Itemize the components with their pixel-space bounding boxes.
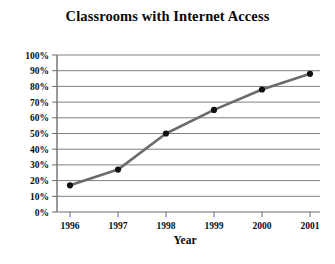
x-tick-label-2000: 2000 — [253, 221, 272, 231]
x-tick-label-1998: 1998 — [157, 221, 176, 231]
y-tick-label-80: 80% — [30, 82, 49, 92]
data-line-series-1 — [70, 74, 310, 186]
y-tick-label-20: 20% — [30, 176, 49, 186]
line-chart-plot: 100% 90% 80% 70% 60% 50% 40% 30% 20% 10%… — [0, 0, 335, 264]
gridlines — [57, 55, 320, 212]
x-tick-label-2001: 2001 — [301, 221, 320, 231]
data-point-2001 — [307, 71, 313, 77]
y-tick-label-30: 30% — [30, 160, 49, 170]
x-tick-label-1999: 1999 — [205, 221, 224, 231]
y-axis-ticks — [52, 55, 57, 212]
y-tick-label-60: 60% — [30, 113, 49, 123]
data-point-2000 — [259, 86, 265, 92]
data-point-1998 — [163, 130, 169, 136]
y-tick-label-0: 0% — [35, 208, 49, 218]
y-tick-label-50: 50% — [30, 129, 49, 139]
y-tick-label-90: 90% — [30, 66, 49, 76]
y-tick-label-100: 100% — [25, 51, 49, 61]
y-tick-label-10: 10% — [30, 192, 49, 202]
y-tick-label-70: 70% — [30, 98, 49, 108]
x-tick-label-1996: 1996 — [61, 221, 80, 231]
x-axis-ticks — [70, 212, 310, 217]
data-point-1997 — [115, 167, 121, 173]
y-tick-label-40: 40% — [30, 145, 49, 155]
data-point-1996 — [67, 182, 73, 188]
data-point-markers — [67, 71, 313, 189]
x-axis-title: Year — [45, 234, 325, 246]
x-tick-label-1997: 1997 — [109, 221, 128, 231]
chart-figure: Classrooms with Internet Access — [0, 0, 335, 264]
data-point-1999 — [211, 107, 217, 113]
